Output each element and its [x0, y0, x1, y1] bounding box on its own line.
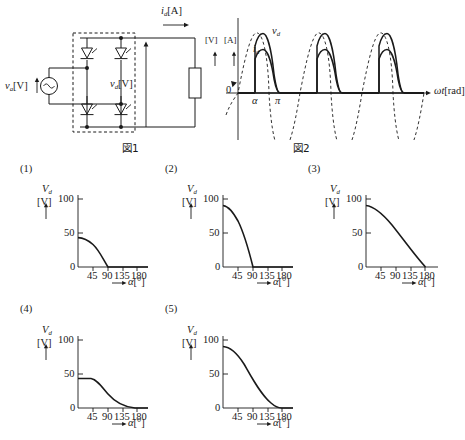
chart-4-number: (4): [20, 303, 32, 314]
chart-1-xtick-45: 45: [87, 271, 98, 282]
chart-1-ytick-0: 0: [70, 262, 75, 273]
chart-1-xtick-90: 90: [102, 271, 113, 282]
vd-label: vd[V]: [110, 79, 133, 90]
chart-5-curve: [223, 347, 293, 409]
chart-5-ytick-0: 0: [215, 403, 220, 414]
chart-3-curve: [366, 206, 426, 268]
chart-1-ytick-100: 100: [58, 194, 74, 205]
figure2-waveform: [V] [A] 0 α π vd id ωt[rad] 図2: [200, 0, 451, 160]
thyristor-top-right: [115, 48, 132, 59]
chart-2-yunit: [V]: [182, 197, 197, 208]
chart-2-ytick-100: 100: [203, 194, 219, 205]
va-label: va[V]: [5, 81, 28, 92]
answer-chart-1: (1) Vd [V] 100 50 0 45 90 135 180 α[°]: [16, 163, 156, 295]
chart-5-xtick-45: 45: [232, 412, 243, 423]
figure1-caption: 図1: [122, 140, 139, 155]
answer-chart-4: (4) Vd [V] 100 50 0 45 90 135 180 α[°]: [16, 303, 156, 437]
vd-pulse-1: [255, 34, 280, 94]
sine-glyph: [44, 84, 55, 88]
chart-5-xtick-90: 90: [247, 412, 258, 423]
chart-2-xlabel: α[°]: [273, 277, 290, 288]
chart-4-ytick-50: 50: [64, 369, 75, 380]
chart-3-xtick-45: 45: [375, 271, 386, 282]
chart-1-curve: [78, 238, 148, 267]
chart-2-curve: [223, 206, 293, 268]
figure2-x-axis-label: ωt[rad]: [434, 86, 465, 97]
chart-3-xtick-90: 90: [390, 271, 401, 282]
thyristor-top-left: [81, 48, 98, 59]
chart-4-xlabel: α[°]: [128, 418, 145, 429]
chart-4-ytick-100: 100: [58, 335, 74, 346]
chart-4-curve: [78, 379, 148, 409]
chart-4-xtick-45: 45: [87, 412, 98, 423]
figure1-circuit: va[V] id[A] vd[V] 図1: [0, 0, 222, 160]
chart-2-ytick-50: 50: [209, 228, 220, 239]
chart-5-number: (5): [165, 303, 177, 314]
chart-4-ytick-0: 0: [70, 403, 75, 414]
chart-2-ytick-0: 0: [215, 262, 220, 273]
figure2-unit-a: [A]: [224, 36, 237, 45]
chart-1-xlabel: α[°]: [128, 277, 145, 288]
chart-3-xlabel: α[°]: [418, 277, 435, 288]
chart-3-yunit: [V]: [325, 197, 340, 208]
chart-1-ylabel: Vd: [42, 184, 52, 195]
chart-4-ylabel: Vd: [42, 325, 52, 336]
figure2-svg: [200, 0, 451, 160]
chart-2-number: (2): [165, 163, 177, 174]
thyristor-bottom-left: [81, 104, 98, 115]
node-left: [85, 66, 89, 70]
chart-2-xtick-90: 90: [247, 271, 258, 282]
chart-5-yunit: [V]: [182, 338, 197, 349]
chart-4-yunit: [V]: [37, 338, 52, 349]
figure2-vd-curve-label: vd: [272, 26, 280, 37]
figure2-unit-v: [V]: [205, 36, 218, 45]
chart-3-ytick-50: 50: [352, 228, 363, 239]
chart-5-ytick-50: 50: [209, 369, 220, 380]
chart-2-ylabel: Vd: [187, 184, 197, 195]
chart-3-number: (3): [308, 163, 320, 174]
chart-2-xtick-45: 45: [232, 271, 243, 282]
chart-3-ylabel: Vd: [330, 184, 340, 195]
answer-chart-2: (2) Vd [V] 100 50 0 45 90 135 180 α[°]: [161, 163, 301, 295]
chart-4-xtick-90: 90: [102, 412, 113, 423]
chart-1-yunit: [V]: [37, 197, 52, 208]
chart-5-xlabel: α[°]: [273, 418, 290, 429]
figure2-pi: π: [275, 96, 280, 107]
figure2-caption: 図2: [293, 140, 310, 155]
answer-chart-3: (3) Vd [V] 100 50 0 45 90 135 180 α[°]: [304, 163, 451, 295]
chart-3-xtick-135: 135: [402, 271, 418, 282]
chart-1-ytick-50: 50: [64, 228, 75, 239]
node-right: [119, 102, 123, 106]
figure2-alpha: α: [252, 96, 258, 107]
chart-3-ytick-100: 100: [346, 194, 362, 205]
chart-3-ytick-0: 0: [358, 262, 363, 273]
vd-pulse-2: [317, 34, 342, 94]
chart-1-number: (1): [20, 163, 32, 174]
id-label: id[A]: [161, 6, 182, 17]
chart-5-ytick-100: 100: [203, 335, 219, 346]
figure2-origin: 0: [226, 85, 231, 96]
chart-5-ylabel: Vd: [187, 325, 197, 336]
answer-chart-5: (5) Vd [V] 100 50 0 45 90 135 180 α[°]: [161, 303, 301, 437]
figure2-id-curve-label: id: [253, 44, 259, 55]
thyristor-bottom-right: [115, 104, 132, 115]
